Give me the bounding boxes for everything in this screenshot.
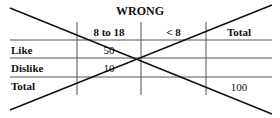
column-header: Total: [206, 26, 272, 38]
row-label: Like: [11, 44, 32, 56]
column-header: 8 to 18: [77, 26, 141, 38]
table-cell: 10: [77, 62, 141, 74]
table-title: WRONG: [0, 4, 280, 19]
column-header: < 8: [141, 26, 206, 38]
table-cell: 100: [206, 81, 272, 93]
row-label: Total: [11, 80, 35, 92]
row-label: Dislike: [11, 62, 43, 74]
table-cell: 50: [77, 44, 141, 56]
